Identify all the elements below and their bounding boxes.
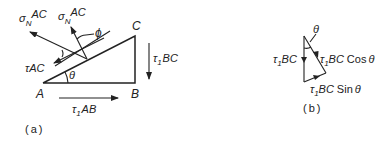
phi-arc bbox=[77, 35, 86, 39]
figure-a: θ A B C σNAC σNAC ϕ τAC τ1BC bbox=[19, 6, 178, 135]
caption-a: (a) bbox=[25, 123, 44, 135]
phi-leader bbox=[86, 34, 94, 35]
theta-arc-b bbox=[304, 47, 311, 48]
theta-label-b: θ bbox=[313, 23, 319, 35]
tau-ac-arrow bbox=[54, 38, 104, 63]
tau-ac-label: τAC bbox=[25, 62, 44, 74]
tau1-bc-label: τ1BC bbox=[153, 52, 178, 67]
phi-label: ϕ bbox=[95, 26, 102, 40]
tau-ac-angle-arc bbox=[62, 50, 63, 57]
arrowhead-cos bbox=[313, 51, 319, 58]
tau1-ab-label: τ1AB bbox=[72, 103, 96, 118]
triangle-abc bbox=[43, 36, 135, 83]
sigma-n-ac-label-2: σNAC bbox=[58, 6, 86, 26]
arrowhead-down bbox=[301, 57, 307, 63]
vertex-a-label: A bbox=[35, 87, 44, 101]
figure-b: θ τ1BC τ1BCCosθ τ1BCSinθ (b) bbox=[273, 23, 374, 114]
sigma-n-ac-label-1: σNAC bbox=[19, 8, 47, 28]
caption-b: (b) bbox=[303, 102, 322, 114]
tau1-bc-cos-label: τ1BCCosθ bbox=[320, 53, 374, 68]
vertex-b-label: B bbox=[131, 87, 139, 101]
stress-diagram: θ A B C σNAC σNAC ϕ τAC τ1BC bbox=[0, 0, 379, 147]
sigma-n-ac-arrow-1 bbox=[30, 32, 87, 59]
tau1-bc-label-b: τ1BC bbox=[273, 53, 297, 68]
tau1-bc-sin-label: τ1BCSinθ bbox=[310, 83, 361, 98]
vertex-c-label: C bbox=[132, 19, 141, 33]
theta-arc bbox=[65, 72, 68, 83]
theta-label: θ bbox=[69, 69, 75, 81]
theta-leader-b bbox=[310, 34, 316, 42]
